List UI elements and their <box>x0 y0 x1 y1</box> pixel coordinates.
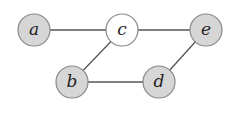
node-d: d <box>143 66 175 98</box>
node-b: b <box>56 66 88 98</box>
node-c: c <box>106 14 138 46</box>
graph-diagram: acebd <box>0 0 233 113</box>
node-a: a <box>18 14 50 46</box>
node-label: a <box>29 19 39 39</box>
node-e: e <box>190 14 222 46</box>
node-label: d <box>154 71 165 91</box>
node-label: c <box>117 19 127 39</box>
node-label: b <box>67 71 78 91</box>
nodes: acebd <box>18 14 222 98</box>
node-label: e <box>201 19 211 39</box>
